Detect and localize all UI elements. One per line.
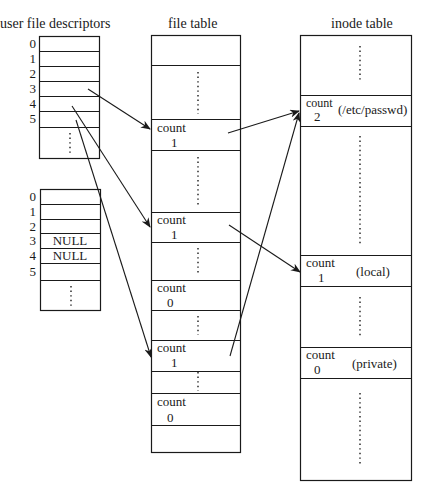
file-entry-count-value: 1 [171,136,178,150]
inode-entry-name: (/etc/passwd) [338,102,407,118]
file-entry-count-value: 0 [167,296,174,310]
inode-entry-count-label: count [306,348,335,362]
ufd-table-1-grid [40,37,100,159]
file-entry-count-label: count [157,341,186,355]
ufd-index: 5 [24,111,36,127]
user-file-descriptors-title: user file descriptors [0,16,110,32]
ufd-index: 3 [24,233,36,249]
file-entry-count-label: count [157,121,186,135]
pointer-arrows [72,89,300,357]
ufd-index: 0 [24,36,36,52]
inode-entry-name: (private) [352,356,397,372]
file-entry-count-value: 1 [171,356,178,370]
ufd-index: 5 [24,264,36,280]
file-entry-count-label: count [157,395,186,409]
inode-entry-count-value: 1 [318,271,325,285]
inode-entry-count-value: 0 [314,363,321,377]
inode-entry-count-label: count [306,256,335,270]
ufd-index: 1 [24,204,36,220]
file-entry-count-value: 1 [171,228,178,242]
inode-entry-name: (local) [356,264,390,280]
ufd-entry-null: NULL [40,233,100,249]
file-table-title: file table [168,16,217,32]
ufd-index: 0 [24,189,36,205]
ufd-index: 4 [24,248,36,264]
ufd-index: 2 [24,66,36,82]
arrow-file0-to-inode0 [228,111,299,133]
ufd-index: 3 [24,81,36,97]
inode-entry-count-value: 2 [314,110,321,124]
arrow-file1-to-inode1 [229,225,300,272]
inode-entry-count-label: count [306,96,333,110]
arrow-ufd4-to-file1 [72,106,150,227]
ufd-index: 1 [24,51,36,67]
ufd-index: 4 [24,96,36,112]
file-entry-count-label: count [157,213,186,227]
arrow-ufd3-to-file0 [88,89,150,129]
file-table-grid [152,36,241,453]
inode-table-title: inode table [331,16,393,32]
file-entry-count-value: 0 [167,411,174,425]
ufd-entry-null: NULL [40,248,100,264]
file-entry-count-label: count [157,281,186,295]
